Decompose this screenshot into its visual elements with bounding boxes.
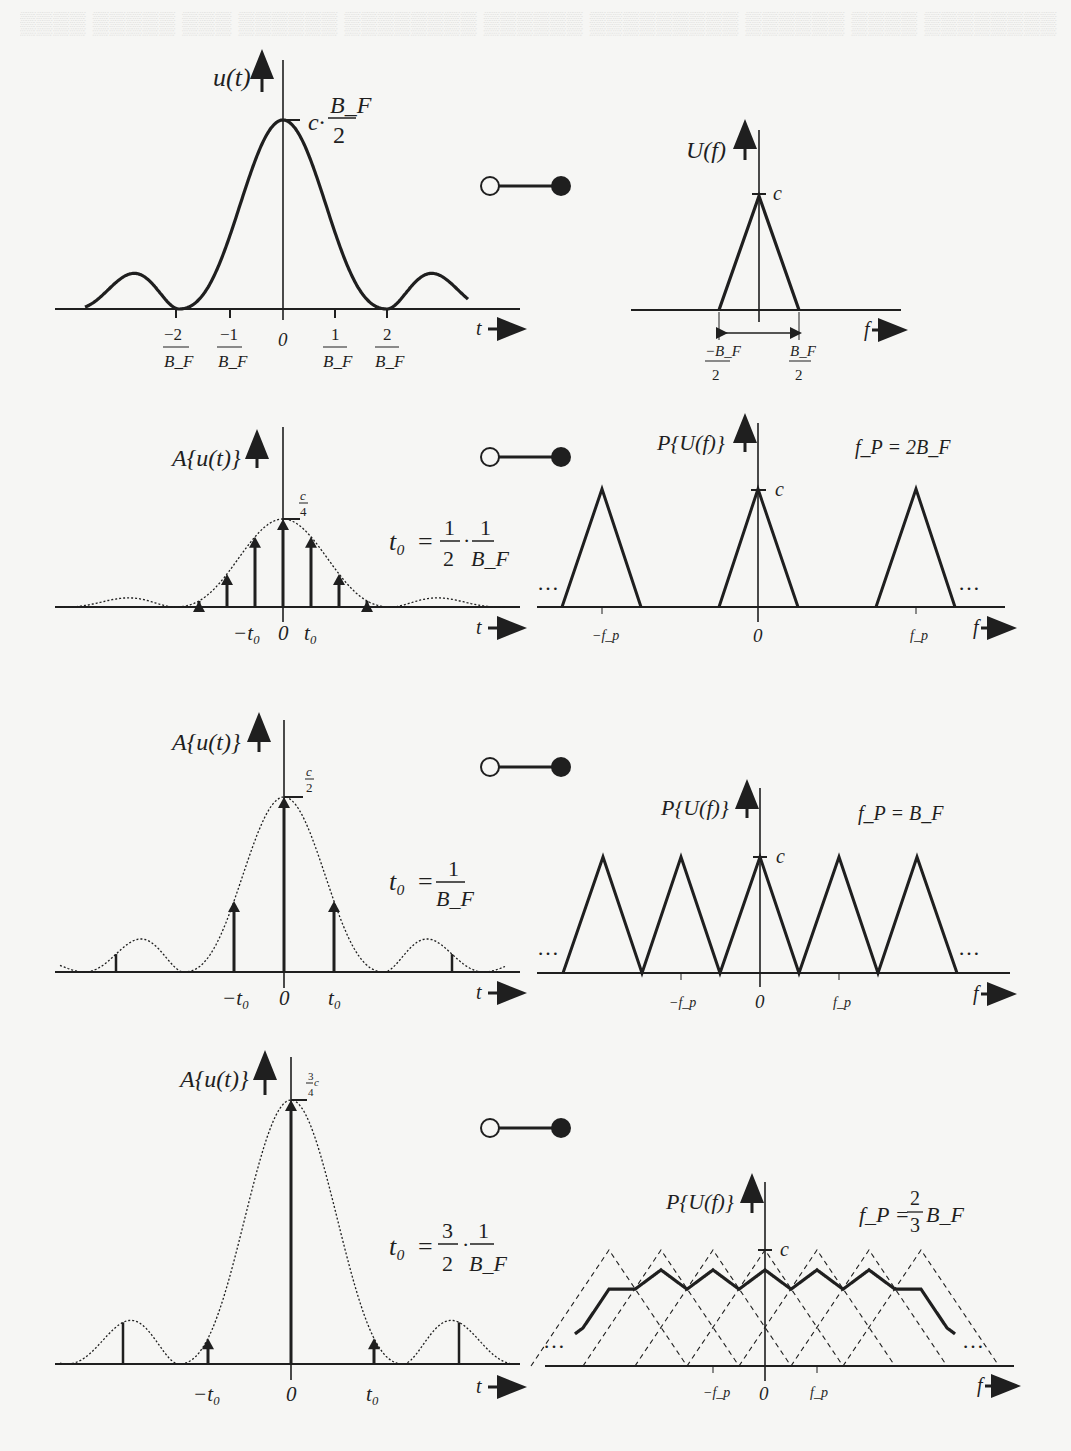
svg-text:0: 0 (278, 621, 289, 645)
impulse-arrowhead-icon (277, 519, 289, 530)
svg-text:…: … (537, 935, 559, 960)
svg-text:c: c (300, 488, 306, 503)
svg-text:2: 2 (443, 546, 454, 571)
svg-text:B_F: B_F (790, 343, 817, 359)
svg-text:B_F: B_F (323, 352, 353, 371)
svg-text:2: 2 (306, 780, 313, 795)
t-ticks: −2 B_F −1 B_F 0 1 B_F 2 B_F (163, 309, 405, 371)
transform-pair-connector (481, 757, 571, 777)
svg-text:f: f (973, 982, 981, 1005)
svg-text:2: 2 (383, 325, 392, 344)
svg-text:…: … (958, 935, 980, 960)
svg-text:−t₀: −t₀ (222, 986, 249, 1010)
svg-text:1: 1 (448, 856, 459, 881)
transform-pair-connector (481, 1118, 571, 1138)
impulse-arrowhead-icon (228, 901, 240, 912)
impulse-arrowhead-icon (202, 1338, 214, 1349)
svg-text:f_p: f_p (833, 995, 851, 1010)
time-panel-sampled-2: c 2 A{u(t)} t₀ = 1 B_F −t₀ 0 t₀ t (55, 720, 520, 1010)
svg-text:2: 2 (712, 367, 720, 383)
open-circle-icon (481, 1119, 499, 1137)
figure-canvas: u(t) c· B_F 2 −2 B_F −1 B_F 0 (0, 0, 1071, 1451)
freq-panel-aliased: c P{U(f)} f_P = 2 3 B_F … … −f_p 0 f_p f (531, 1182, 1014, 1404)
sample-stems (123, 1100, 459, 1364)
svg-text:=: = (418, 1232, 433, 1261)
sampling-interval-formula: t₀ = 1 B_F (389, 856, 474, 911)
sinc-squared-curve (85, 120, 468, 309)
fp-label: f_P = 2 3 B_F (859, 1187, 964, 1236)
transform-pair-connector (481, 447, 571, 467)
svg-text:t₀: t₀ (304, 621, 317, 645)
svg-text:0: 0 (759, 1383, 769, 1404)
svg-text:P{U(f)}: P{U(f)} (660, 795, 729, 820)
svg-text:0: 0 (286, 1382, 297, 1406)
svg-text:B_F: B_F (330, 92, 372, 118)
svg-text:−t₀: −t₀ (233, 621, 260, 645)
svg-text:…: … (962, 1328, 984, 1353)
svg-text:…: … (543, 1328, 565, 1353)
impulse-arrowhead-icon (328, 901, 340, 912)
svg-text:A{u(t)}: A{u(t)} (170, 445, 241, 471)
svg-text:B_F: B_F (164, 352, 194, 371)
svg-text:c: c (776, 845, 785, 867)
svg-text:B_F: B_F (471, 546, 509, 571)
svg-text:t: t (476, 981, 482, 1003)
svg-text:P{U(f)}: P{U(f)} (665, 1189, 734, 1214)
svg-text:f_P =: f_P = (859, 1202, 910, 1227)
svg-text:−1: −1 (220, 325, 238, 344)
svg-text:0: 0 (755, 991, 765, 1012)
svg-text:t₀: t₀ (389, 1232, 405, 1261)
freq-panel-U: c U(f) −B_F 2 B_F 2 f (631, 130, 901, 383)
row-original: u(t) c· B_F 2 −2 B_F −1 B_F 0 (55, 60, 901, 383)
svg-text:c: c (780, 1238, 789, 1260)
svg-text:2: 2 (442, 1251, 453, 1276)
ylabel-u: u(t) (213, 63, 262, 92)
peak-label: c· B_F 2 (308, 92, 372, 148)
impulse-arrowhead-icon (368, 1338, 380, 1349)
svg-text:1: 1 (444, 515, 455, 540)
transform-pair-connector (481, 176, 571, 196)
freq-panel-periodic-1: c P{U(f)} f_P = 2B_F … … −f_p 0 f_p f (537, 423, 1005, 646)
svg-text:B_F: B_F (218, 352, 248, 371)
svg-text:B_F: B_F (926, 1202, 964, 1227)
svg-text:f_P = 2B_F: f_P = 2B_F (855, 436, 951, 459)
time-panel-sampled-3: 3 c 4 A{u(t)} t₀ = 3 2 · 1 B_F −t₀ 0 t₀ … (55, 1057, 520, 1406)
svg-text:t₀: t₀ (389, 867, 405, 896)
time-panel-u: u(t) c· B_F 2 −2 B_F −1 B_F 0 (55, 60, 520, 371)
svg-text:f: f (973, 616, 981, 639)
sampling-interval-formula: t₀ = 1 2 · 1 B_F (389, 515, 509, 571)
svg-text:1: 1 (478, 1218, 489, 1243)
row-oversampled: c 4 A{u(t)} t₀ = 1 2 · 1 B_F −t₀ 0 t₀ t (55, 423, 1005, 646)
svg-text:−f_p: −f_p (703, 1385, 730, 1400)
svg-text:…: … (537, 570, 559, 595)
svg-text:u(t): u(t) (213, 63, 251, 92)
svg-text:c: c (314, 1076, 319, 1088)
svg-text:2: 2 (795, 367, 803, 383)
svg-text:−B_F: −B_F (705, 343, 742, 359)
row-critical: c 2 A{u(t)} t₀ = 1 B_F −t₀ 0 t₀ t (55, 720, 1010, 1012)
filled-circle-icon (551, 757, 571, 777)
svg-text:t₀: t₀ (366, 1382, 379, 1406)
svg-text:t₀: t₀ (389, 527, 405, 556)
svg-text:=: = (418, 527, 433, 556)
filled-circle-icon (551, 447, 571, 467)
svg-text:f: f (977, 1374, 985, 1397)
svg-text:B_F: B_F (436, 886, 474, 911)
svg-text:0: 0 (278, 329, 288, 350)
impulse-arrowhead-icon (221, 574, 233, 585)
svg-text:…: … (958, 570, 980, 595)
sampling-interval-formula: t₀ = 3 2 · 1 B_F (389, 1218, 507, 1276)
svg-text:P{U(f)}: P{U(f)} (656, 430, 725, 455)
svg-text:B_F: B_F (375, 352, 405, 371)
svg-text:A{u(t)}: A{u(t)} (178, 1066, 249, 1092)
svg-text:2: 2 (910, 1187, 920, 1209)
svg-text:t: t (476, 317, 482, 339)
svg-text:U(f): U(f) (686, 137, 726, 163)
svg-text:−t₀: −t₀ (193, 1382, 220, 1406)
svg-text:f: f (864, 318, 872, 341)
filled-circle-icon (551, 176, 571, 196)
svg-text:c: c (775, 478, 784, 500)
svg-text:4: 4 (308, 1086, 314, 1098)
row-undersampled: 3 c 4 A{u(t)} t₀ = 3 2 · 1 B_F −t₀ 0 t₀ … (55, 1057, 1014, 1406)
svg-text:t₀: t₀ (328, 986, 341, 1010)
